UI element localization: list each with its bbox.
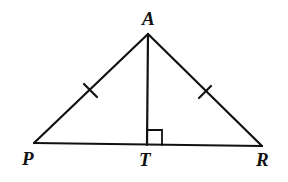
label-t: T	[139, 150, 151, 169]
tick-mark-ar	[199, 86, 211, 98]
segment-ar	[148, 34, 262, 146]
segment-ap	[34, 34, 148, 143]
segment-at	[147, 34, 148, 145]
label-r: R	[256, 150, 269, 169]
right-angle-mark	[147, 130, 162, 145]
diagram-canvas: A P T R	[0, 0, 288, 182]
label-p: P	[22, 149, 34, 168]
label-a: A	[142, 9, 155, 28]
